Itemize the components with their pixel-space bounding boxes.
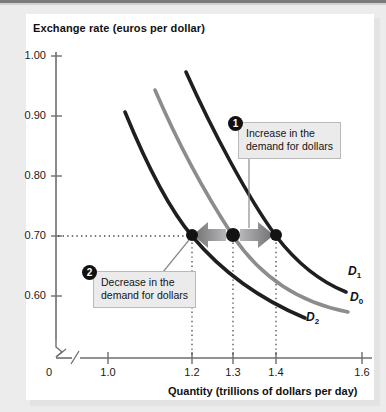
y-axis [51, 52, 62, 340]
curve-label-d1: D1 [348, 264, 361, 280]
y-tick-label-090: 0.90 [12, 109, 46, 121]
equilibrium-dot-13 [226, 228, 240, 242]
annotation-badge-2: 2 [82, 265, 97, 280]
equilibrium-dot-12 [186, 229, 198, 241]
x-axis [80, 352, 372, 364]
x-tick-label-16: 1.6 [345, 366, 379, 378]
annotation-increase-line2: demand for dollars [246, 140, 333, 153]
annotation-decrease-line1: Decrease in the [101, 276, 188, 289]
axis-break-marker [56, 340, 79, 364]
x-axis-title: Quantity (trillions of dollars per day) [168, 385, 357, 397]
curve-label-d2: D2 [306, 310, 319, 326]
curve-label-d2-letter: D [306, 310, 315, 324]
y-tick-label-100: 1.00 [12, 49, 46, 61]
curve-label-d0-subscript: 0 [359, 297, 363, 306]
curve-label-d1-letter: D [348, 264, 357, 278]
equilibrium-dot-14 [270, 229, 282, 241]
x-tick-label-10: 1.0 [91, 366, 125, 378]
y-tick-label-080: 0.80 [12, 169, 46, 181]
annotation-badge-1: 1 [228, 116, 243, 131]
annotation-increase-demand: Increase in the demand for dollars [238, 122, 341, 159]
annotation-decrease-line2: demand for dollars [101, 289, 188, 302]
y-tick-label-070: 0.70 [12, 229, 46, 241]
curve-label-d0-letter: D [350, 290, 359, 304]
y-tick-label-060: 0.60 [12, 289, 46, 301]
x-tick-label-12: 1.2 [175, 366, 209, 378]
annotation-decrease-demand: Decrease in the demand for dollars [93, 271, 196, 308]
x-tick-label-14: 1.4 [259, 366, 293, 378]
origin-label: 0 [46, 366, 52, 378]
exchange-rate-demand-figure: Exchange rate (euros per dollar) [0, 0, 386, 412]
curve-label-d0: D0 [350, 290, 363, 306]
demand-curve-d1 [186, 72, 346, 292]
chart-canvas [0, 0, 386, 412]
curve-label-d1-subscript: 1 [357, 271, 361, 280]
x-tick-label-13: 1.3 [216, 366, 250, 378]
annotation-increase-line1: Increase in the [246, 127, 333, 140]
curve-label-d2-subscript: 2 [315, 317, 319, 326]
